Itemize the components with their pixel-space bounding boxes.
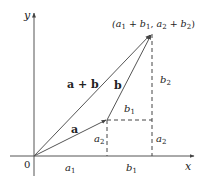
label-b2: b2 xyxy=(160,74,171,87)
endpoint-label: (a1 + b1, a2 + b2) xyxy=(112,18,195,31)
label-a-plus-b: a + b xyxy=(67,78,99,91)
y-axis-label: y xyxy=(23,9,31,22)
label-b: b xyxy=(114,79,122,92)
vector-a-plus-b xyxy=(34,35,150,156)
label-b1-bottom: b1 xyxy=(126,162,137,175)
label-a2-left: a2 xyxy=(94,133,104,146)
label-a: a xyxy=(71,123,78,136)
label-b1-top: b1 xyxy=(124,103,135,116)
x-axis-label: x xyxy=(185,160,192,173)
label-a2-right: a2 xyxy=(156,133,166,146)
origin-label: 0 xyxy=(24,159,30,170)
label-a1: a1 xyxy=(65,162,75,175)
vector-addition-diagram: y x 0 (a1 + b1, a2 + b2) a + b b a b2 b1… xyxy=(0,0,202,183)
